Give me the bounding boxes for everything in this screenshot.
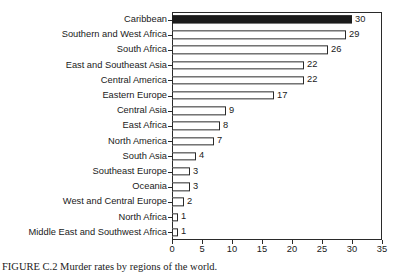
chart-bar [172, 228, 178, 237]
bar-value-label: 26 [331, 45, 341, 54]
bar-with-value: 2 [172, 197, 192, 206]
chart-bar [172, 152, 196, 161]
x-axis: 05101520253035 [172, 240, 382, 258]
bar-value-label: 30 [355, 15, 365, 24]
chart-bar-row: Middle East and Southwest Africa1 [172, 225, 382, 240]
chart-bar-row: East Africa8 [172, 118, 382, 133]
chart-bar-row: Oceania3 [172, 179, 382, 194]
bar-value-label: 3 [193, 182, 198, 191]
chart-bar-row: East and Southeast Asia22 [172, 58, 382, 73]
bar-value-label: 1 [181, 228, 186, 237]
bar-with-value: 26 [172, 45, 341, 54]
bar-with-value: 1 [172, 213, 186, 222]
y-axis-category-label: East and Southeast Asia [66, 61, 167, 70]
x-axis-tick-label: 5 [199, 245, 204, 254]
chart-bar-row: South Asia4 [172, 149, 382, 164]
bar-value-label: 17 [277, 91, 287, 100]
chart-bar-row: Caribbean30 [172, 12, 382, 27]
chart-bar [172, 76, 304, 85]
y-axis-category-label: Central Asia [117, 106, 167, 115]
x-axis-tick-label: 20 [287, 245, 297, 254]
bar-value-label: 8 [223, 121, 228, 130]
bar-value-label: 7 [217, 137, 222, 146]
y-axis-category-label: East Africa [123, 121, 167, 130]
bar-with-value: 7 [172, 137, 222, 146]
y-axis-category-label: Southern and West Africa [62, 30, 167, 39]
bar-with-value: 9 [172, 106, 234, 115]
y-axis-category-label: South Africa [117, 45, 167, 54]
chart-bar [172, 15, 352, 24]
y-axis-category-label: Middle East and Southwest Africa [29, 228, 168, 237]
y-axis-category-label: Central America [101, 76, 167, 85]
y-axis-category-label: Oceania [132, 182, 167, 191]
bar-with-value: 22 [172, 76, 317, 85]
bar-value-label: 22 [307, 61, 317, 70]
x-axis-tick-label: 25 [317, 245, 327, 254]
chart-bar-row: Eastern Europe17 [172, 88, 382, 103]
chart-bar [172, 91, 274, 100]
bar-value-label: 1 [181, 213, 186, 222]
bar-with-value: 17 [172, 91, 287, 100]
x-axis-tick-label: 0 [169, 245, 174, 254]
chart-bar [172, 122, 220, 131]
x-axis-tick-label: 10 [227, 245, 237, 254]
bar-value-label: 9 [229, 106, 234, 115]
bar-value-label: 3 [193, 167, 198, 176]
figure-container: Caribbean30Southern and West Africa29Sou… [0, 0, 402, 272]
chart-bar-row: Southern and West Africa29 [172, 27, 382, 42]
y-axis-category-label: West and Central Europe [63, 197, 167, 206]
y-axis-category-label: South Asia [123, 152, 167, 161]
chart-bar-row: Central Asia9 [172, 103, 382, 118]
y-axis-category-label: Eastern Europe [102, 91, 167, 100]
chart-bar [172, 46, 328, 55]
chart-bar [172, 198, 184, 207]
chart-bar [172, 167, 190, 176]
chart-bar [172, 137, 214, 146]
x-axis-tick-label: 35 [377, 245, 387, 254]
chart-bar-row: West and Central Europe2 [172, 194, 382, 209]
chart-bar-row: North America7 [172, 134, 382, 149]
chart-bar-row: Central America22 [172, 73, 382, 88]
figure-caption: FIGURE C.2 Murder rates by regions of th… [2, 261, 402, 272]
x-axis-tick-label: 15 [257, 245, 267, 254]
bar-with-value: 22 [172, 61, 317, 70]
y-axis-category-label: Southeast Europe [93, 167, 167, 176]
bar-with-value: 29 [172, 30, 359, 39]
bar-value-label: 29 [349, 30, 359, 39]
chart-bar [172, 61, 304, 70]
bar-with-value: 30 [172, 15, 365, 24]
y-axis-category-label: Caribbean [124, 15, 167, 24]
y-axis-category-label: North America [108, 137, 167, 146]
chart-bar [172, 107, 226, 116]
chart-bar [172, 213, 178, 222]
chart-bar [172, 31, 346, 40]
chart-bar-row: South Africa26 [172, 42, 382, 57]
chart-bar-row: North Africa1 [172, 210, 382, 225]
bar-with-value: 3 [172, 167, 198, 176]
bar-with-value: 8 [172, 121, 228, 130]
x-axis-tick-label: 30 [347, 245, 357, 254]
bar-value-label: 4 [199, 152, 204, 161]
bar-value-label: 22 [307, 76, 317, 85]
bar-with-value: 4 [172, 152, 204, 161]
chart-bar [172, 183, 190, 192]
bar-with-value: 1 [172, 228, 186, 237]
bar-value-label: 2 [187, 197, 192, 206]
y-axis-category-label: North Africa [118, 213, 167, 222]
chart-bar-row: Southeast Europe3 [172, 164, 382, 179]
bar-with-value: 3 [172, 182, 198, 191]
